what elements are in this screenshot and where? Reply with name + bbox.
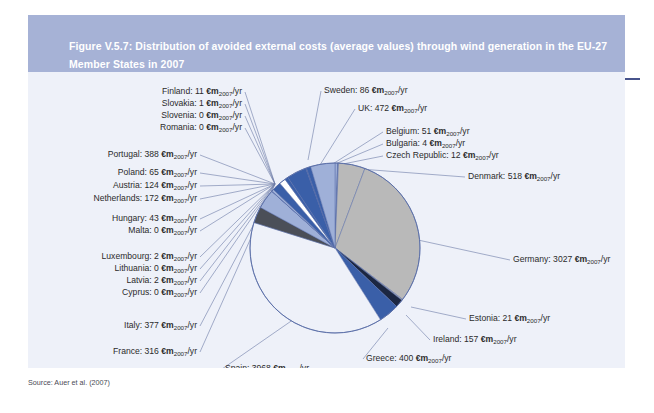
callout-label-romania: Romania: 0 €m2007/yr [160,122,242,133]
leader-line-slovenia [245,116,275,184]
callout-label-denmark: Denmark: 518 €m2007/yr [468,171,560,182]
leader-line-austria [200,184,275,186]
callout-label-greece: Greece: 400 €m2007/yr [366,353,451,364]
callout-label-france: France: 316 €m2007/yr [113,346,197,357]
callout-label-malta: Malta: 0 €m2007/yr [128,225,197,236]
currency-symbol: €m [161,275,173,285]
unit-year-subscript: 2007 [527,317,541,324]
unit-year-subscript: 2007 [404,107,418,114]
unit-suffix: /yr [187,149,197,159]
unit-suffix: /yr [232,98,242,108]
unit-year-subscript: 2007 [219,90,233,97]
figure-footer-band [28,368,625,398]
unit-year-subscript: 2007 [174,184,188,191]
unit-year-subscript: 2007 [174,197,188,204]
callout-text-poland: Poland: 65 [118,167,161,177]
unit-suffix: /yr [187,263,197,273]
callout-text-france: France: 316 [113,346,161,356]
callout-text-austria: Austria: 124 [113,180,161,190]
currency-symbol: €m [206,122,218,132]
unit-suffix: /yr [398,85,408,95]
callout-text-slovenia: Slovenia: 0 [161,110,206,120]
callout-label-poland: Poland: 65 €m2007/yr [118,167,197,178]
currency-symbol: €m [434,126,446,136]
callout-label-belgium: Belgium: 51 €m2007/yr [386,126,470,137]
callout-text-slovakia: Slovakia: 1 [162,98,206,108]
unit-year-subscript: 2007 [384,89,398,96]
unit-year-subscript: 2007 [174,229,188,236]
currency-symbol: €m [429,138,441,148]
unit-suffix: /yr [601,254,611,264]
callout-label-cyprus: Cyprus: 0 €m2007/yr [122,287,197,298]
unit-suffix: /yr [442,353,452,363]
unit-year-subscript: 2007 [587,258,601,265]
unit-suffix: /yr [541,313,551,323]
callout-label-uk: UK: 472 €m2007/yr [358,103,427,114]
callout-label-slovenia: Slovenia: 0 €m2007/yr [161,110,242,121]
currency-symbol: €m [481,334,493,344]
unit-year-subscript: 2007 [174,350,188,357]
currency-symbol: €m [416,353,428,363]
currency-symbol: €m [161,167,173,177]
callout-label-austria: Austria: 124 €m2007/yr [113,180,197,191]
unit-suffix: /yr [456,138,466,148]
unit-year-subscript: 2007 [493,338,507,345]
unit-year-subscript: 2007 [475,154,489,161]
callout-label-estonia: Estonia: 21 €m2007/yr [469,313,550,324]
unit-suffix: /yr [418,103,428,113]
callout-text-germany: Germany: 3027 [513,254,575,264]
unit-year-subscript: 2007 [174,324,188,331]
currency-symbol: €m [161,320,173,330]
figure-title: Figure V.5.7: Distribution of avoided ex… [69,37,645,73]
currency-symbol: €m [206,86,218,96]
unit-year-subscript: 2007 [174,153,188,160]
currency-symbol: €m [514,313,526,323]
currency-symbol: €m [206,98,218,108]
pie-slice-group [250,163,420,333]
callout-text-bulgaria: Bulgaria: 4 [386,138,429,148]
figure-header-band: Figure V.5.7: Distribution of avoided ex… [28,15,625,72]
unit-suffix: /yr [507,334,517,344]
currency-symbol: €m [161,287,173,297]
leader-line-germany [418,240,510,260]
callout-label-slovakia: Slovakia: 1 €m2007/yr [162,98,242,109]
currency-symbol: €m [161,346,173,356]
currency-symbol: €m [161,251,173,261]
callout-text-netherlands: Netherlands: 172 [93,193,161,203]
unit-suffix: /yr [187,213,197,223]
callout-label-finland: Finland: 11 €m2007/yr [162,86,242,97]
currency-symbol: €m [206,110,218,120]
unit-year-subscript: 2007 [446,130,460,137]
callout-text-finland: Finland: 11 [162,86,206,96]
callout-text-denmark: Denmark: 518 [468,171,524,181]
currency-symbol: €m [161,213,173,223]
callout-text-greece: Greece: 400 [366,353,416,363]
callout-label-portugal: Portugal: 388 €m2007/yr [108,149,197,160]
callout-text-lithuania: Lithuania: 0 [114,263,161,273]
unit-year-subscript: 2007 [537,175,551,182]
unit-year-subscript: 2007 [219,114,233,121]
callout-text-malta: Malta: 0 [128,225,161,235]
unit-suffix: /yr [232,86,242,96]
callout-label-sweden: Sweden: 86 €m2007/yr [324,85,408,96]
unit-year-subscript: 2007 [219,102,233,109]
callout-text-estonia: Estonia: 21 [469,313,514,323]
currency-symbol: €m [391,103,403,113]
leader-line-romania [245,128,275,184]
leader-line-finland [245,92,275,184]
unit-year-subscript: 2007 [428,357,442,364]
leader-line-slovakia [245,104,275,184]
currency-symbol: €m [161,193,173,203]
unit-suffix: /yr [187,167,197,177]
source-note: Source: Auer et al. (2007) [28,378,110,387]
callout-text-ireland: Ireland: 157 [433,334,481,344]
callout-text-romania: Romania: 0 [160,122,206,132]
currency-symbol: €m [161,149,173,159]
unit-suffix: /yr [187,320,197,330]
currency-symbol: €m [161,180,173,190]
leader-line-portugal [200,155,275,184]
callout-label-ireland: Ireland: 157 €m2007/yr [433,334,517,345]
unit-suffix: /yr [551,171,561,181]
callout-text-latvia: Latvia: 2 [126,275,161,285]
unit-year-subscript: 2007 [174,171,188,178]
